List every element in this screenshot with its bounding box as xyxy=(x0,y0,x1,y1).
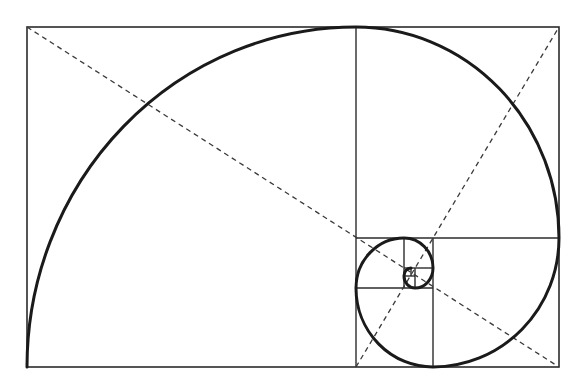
golden-spiral-diagram xyxy=(0,0,584,390)
background xyxy=(0,0,584,390)
